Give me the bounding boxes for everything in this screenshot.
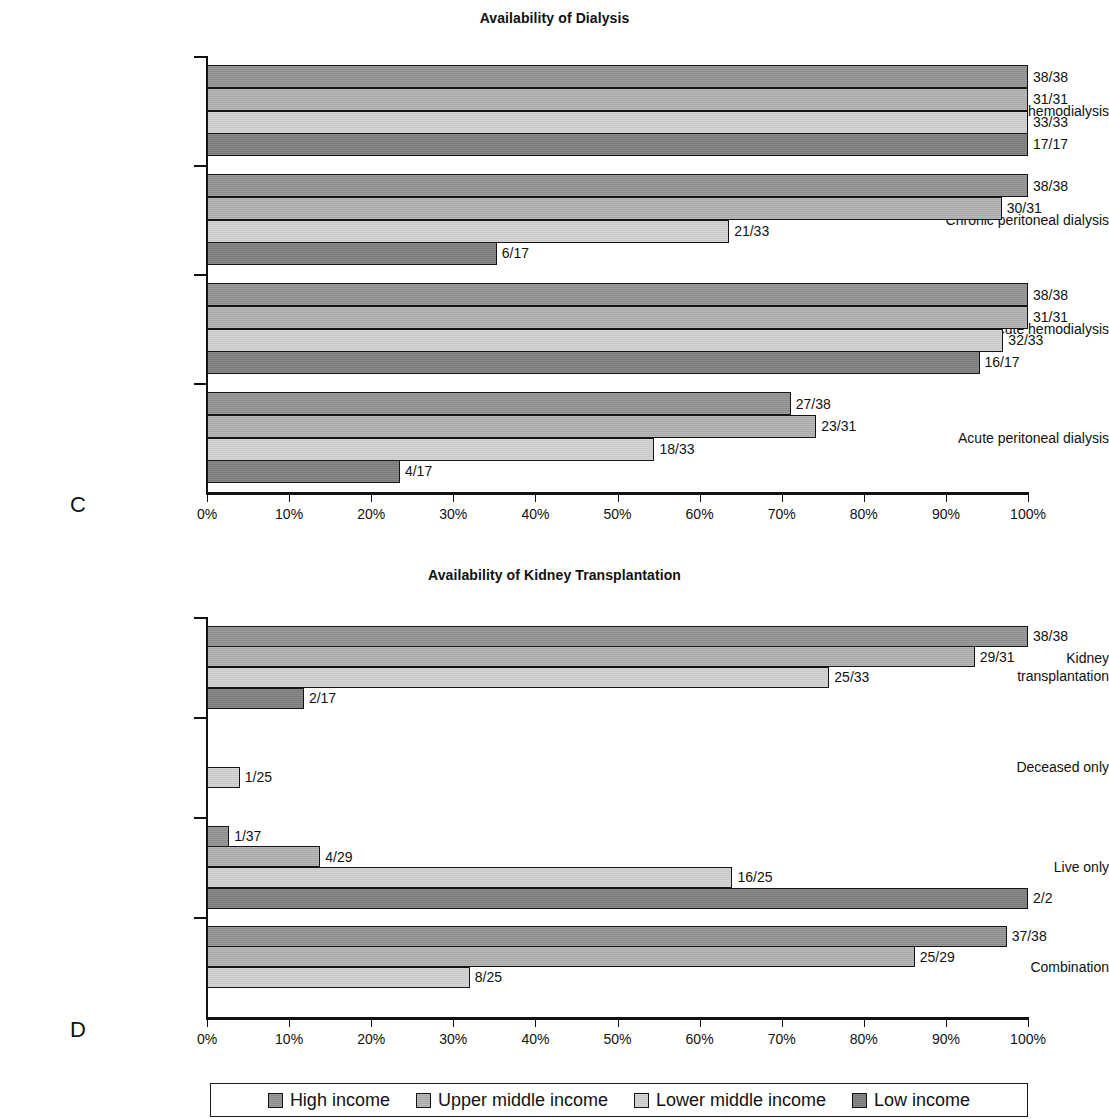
x-axis-label: 0%	[197, 1031, 217, 1047]
bar	[207, 392, 791, 415]
bar	[207, 926, 1007, 947]
x-axis-label: 20%	[357, 1031, 385, 1047]
x-axis-label: 20%	[357, 506, 385, 522]
bar-value-label: 38/38	[1033, 629, 1068, 643]
bar-value-label: 18/33	[659, 442, 694, 456]
bar	[207, 88, 1028, 111]
bar-value-label: 2/17	[309, 691, 336, 705]
bar-value-label: 30/31	[1007, 201, 1042, 215]
x-axis-label: 90%	[932, 1031, 960, 1047]
panel-letter-d: D	[70, 1017, 86, 1043]
x-axis-label: 30%	[439, 1031, 467, 1047]
bar-value-label: 1/25	[245, 770, 272, 784]
x-axis-label: 70%	[768, 1031, 796, 1047]
x-axis-tick	[371, 495, 372, 502]
x-axis-label: 50%	[603, 506, 631, 522]
bar-value-label: 16/17	[985, 355, 1020, 369]
bar-value-label: 21/33	[734, 224, 769, 238]
bar-value-label: 25/29	[920, 950, 955, 964]
bar-value-label: 27/38	[796, 397, 831, 411]
bar	[207, 646, 975, 667]
bar-value-label: 38/38	[1033, 179, 1068, 193]
bar	[207, 667, 829, 688]
bar-value-label: 31/31	[1033, 92, 1068, 106]
legend-swatch-icon	[268, 1093, 283, 1108]
chart-legend: High incomeUpper middle incomeLower midd…	[210, 1083, 1028, 1117]
x-axis-tick	[535, 1020, 536, 1027]
x-axis-label: 0%	[197, 506, 217, 522]
y-axis-tick	[194, 717, 206, 719]
x-axis-tick	[207, 1020, 208, 1027]
x-axis-label: 40%	[521, 506, 549, 522]
x-axis-label: 60%	[686, 1031, 714, 1047]
bar	[207, 111, 1028, 134]
bar	[207, 767, 240, 788]
x-axis-tick	[289, 495, 290, 502]
x-axis-label: 80%	[850, 1031, 878, 1047]
bar-value-label: 6/17	[502, 246, 529, 260]
x-axis-label: 80%	[850, 506, 878, 522]
x-axis-tick	[618, 1020, 619, 1027]
bar	[207, 460, 400, 483]
x-axis-tick	[1028, 1020, 1029, 1027]
bar-value-label: 25/33	[834, 670, 869, 684]
bar	[207, 888, 1028, 909]
x-axis-label: 10%	[275, 506, 303, 522]
bar-value-label: 38/38	[1033, 288, 1068, 302]
x-axis-tick	[618, 495, 619, 502]
y-axis-tick	[194, 274, 206, 276]
bar	[207, 438, 654, 461]
x-axis-tick	[453, 495, 454, 502]
x-axis-tick	[453, 1020, 454, 1027]
legend-swatch-icon	[634, 1093, 649, 1108]
bar-value-label: 33/33	[1033, 115, 1068, 129]
bar	[207, 306, 1028, 329]
bar	[207, 626, 1028, 647]
x-axis-tick	[946, 495, 947, 502]
legend-item: Low income	[852, 1090, 970, 1111]
legend-swatch-icon	[852, 1093, 867, 1108]
bar	[207, 329, 1003, 352]
bar	[207, 867, 732, 888]
bar-value-label: 23/31	[821, 419, 856, 433]
bar	[207, 946, 915, 967]
bar-value-label: 29/31	[980, 650, 1015, 664]
x-axis-label: 50%	[603, 1031, 631, 1047]
x-axis-label: 90%	[932, 506, 960, 522]
y-axis-tick	[194, 56, 206, 58]
x-axis-tick	[535, 495, 536, 502]
bar-value-label: 32/33	[1008, 333, 1043, 347]
x-axis-tick	[289, 1020, 290, 1027]
panel-letter-c: C	[70, 492, 86, 518]
bar	[207, 242, 497, 265]
x-axis-label: 10%	[275, 1031, 303, 1047]
x-axis-tick	[700, 1020, 701, 1027]
x-axis-tick	[782, 1020, 783, 1027]
chart-title-transplantation: Availability of Kidney Transplantation	[0, 567, 1109, 583]
y-axis-tick	[194, 165, 206, 167]
bar-value-label: 38/38	[1033, 70, 1068, 84]
bar	[207, 174, 1028, 197]
legend-label: Upper middle income	[438, 1090, 608, 1111]
x-axis-label: 70%	[768, 506, 796, 522]
legend-label: High income	[290, 1090, 390, 1111]
bar-value-label: 16/25	[737, 870, 772, 884]
legend-label: Lower middle income	[656, 1090, 826, 1111]
category-label: Deceased only	[923, 758, 1109, 776]
bar-value-label: 1/37	[234, 829, 261, 843]
bar-value-label: 4/29	[325, 850, 352, 864]
bar	[207, 688, 304, 709]
x-axis-tick	[371, 1020, 372, 1027]
x-axis-tick	[864, 495, 865, 502]
y-axis-tick	[194, 617, 206, 619]
bar	[207, 133, 1028, 156]
bar	[207, 351, 980, 374]
x-axis-tick	[864, 1020, 865, 1027]
x-axis-tick	[1028, 495, 1029, 502]
x-axis-tick	[207, 495, 208, 502]
bar-value-label: 8/25	[475, 970, 502, 984]
bar-value-label: 17/17	[1033, 137, 1068, 151]
bar	[207, 65, 1028, 88]
category-label: Live only	[923, 858, 1109, 876]
x-axis-label: 40%	[521, 1031, 549, 1047]
